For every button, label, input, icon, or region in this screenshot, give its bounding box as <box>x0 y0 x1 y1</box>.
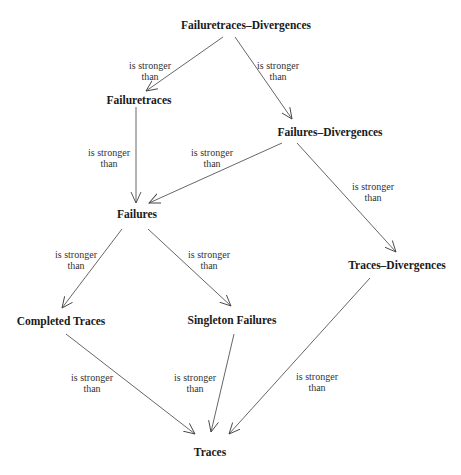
node-traces-divergences: Traces–Divergences <box>348 259 446 271</box>
edge-label-f-ct: is strongerthan <box>55 249 97 271</box>
edges-layer <box>0 0 461 475</box>
node-singleton-failures: Singleton Failures <box>188 314 277 326</box>
edge-label-td-t: is strongerthan <box>296 371 338 393</box>
node-failuretraces-divergences: Failuretraces–Divergences <box>181 19 311 31</box>
edge-label-ftd-fd: is strongerthan <box>257 60 299 82</box>
edge-label-fd-f: is strongerthan <box>191 147 233 169</box>
edge-label-ftd-ft: is strongerthan <box>129 60 171 82</box>
edge-label-f-sf: is strongerthan <box>188 249 230 271</box>
node-failuretraces: Failuretraces <box>107 94 172 106</box>
edge-label-ct-t: is strongerthan <box>71 372 113 394</box>
edge-td-t <box>229 278 370 434</box>
edge-label-fd-td: is strongerthan <box>352 181 394 203</box>
node-failures: Failures <box>117 208 157 220</box>
edge-label-sf-t: is strongerthan <box>174 372 216 394</box>
edge-label-ft-f: is strongerthan <box>88 147 130 169</box>
node-traces: Traces <box>194 446 226 458</box>
node-failures-divergences: Failures–Divergences <box>277 126 382 138</box>
node-completed-traces: Completed Traces <box>17 315 106 327</box>
